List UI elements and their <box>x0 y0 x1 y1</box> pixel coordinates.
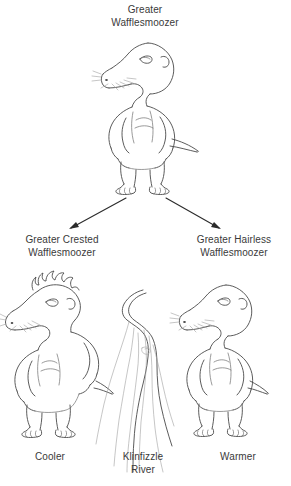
creature-greater-crested-wafflesmoozer <box>0 271 114 438</box>
creature-greater-wafflesmoozer <box>92 43 199 195</box>
label-warmer-climate: Warmer <box>196 451 280 464</box>
arrow-to-crested <box>69 198 126 229</box>
arrow-to-hairless <box>166 198 221 229</box>
label-greater-crested-wafflesmoozer: Greater Crested Wafflesmoozer <box>2 234 122 259</box>
label-greater-hairless-wafflesmoozer: Greater Hairless Wafflesmoozer <box>174 234 291 259</box>
label-greater-wafflesmoozer: Greater Wafflesmoozer <box>80 4 210 29</box>
speciation-diagram: Greater Wafflesmoozer Greater Crested Wa… <box>0 0 291 486</box>
label-cooler-climate: Cooler <box>10 451 90 464</box>
creature-greater-hairless-wafflesmoozer <box>170 285 269 437</box>
klinfizzle-river <box>96 290 174 472</box>
label-klinfizzle-river: Klinfizzle River <box>98 451 188 476</box>
